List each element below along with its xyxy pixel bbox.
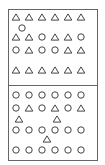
- shape-grid-figure: [0, 0, 105, 165]
- figure-background: [0, 0, 105, 165]
